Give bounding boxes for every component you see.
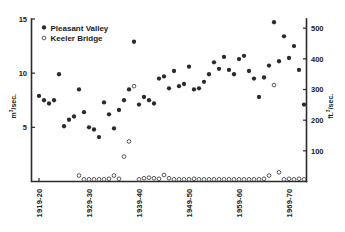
data-point-keeler-bridge: [212, 177, 216, 181]
series-keeler-bridge: [77, 83, 306, 181]
data-point-keeler-bridge: [77, 174, 81, 178]
data-point-keeler-bridge: [207, 177, 211, 181]
data-point-keeler-bridge: [277, 170, 281, 174]
data-point-keeler-bridge: [152, 176, 156, 180]
data-point-pleasant-valley: [212, 60, 216, 64]
data-points-group: [37, 20, 306, 181]
data-point-pleasant-valley: [272, 20, 276, 24]
data-point-pleasant-valley: [302, 102, 306, 106]
data-point-pleasant-valley: [92, 127, 96, 131]
data-point-pleasant-valley: [247, 69, 251, 73]
data-point-keeler-bridge: [242, 177, 246, 181]
y-axis-title-left: m3/sec.: [8, 94, 17, 119]
legend-label: Pleasant Valley: [51, 24, 109, 33]
data-point-pleasant-valley: [282, 34, 286, 38]
data-point-pleasant-valley: [62, 124, 66, 128]
data-point-keeler-bridge: [202, 177, 206, 181]
data-point-keeler-bridge: [222, 177, 226, 181]
data-point-pleasant-valley: [182, 82, 186, 86]
data-point-pleasant-valley: [102, 100, 106, 104]
data-point-pleasant-valley: [107, 112, 111, 116]
data-point-pleasant-valley: [52, 98, 56, 102]
data-point-keeler-bridge: [117, 177, 121, 181]
x-tick-label: 1949-50: [185, 189, 194, 218]
data-point-pleasant-valley: [117, 108, 121, 112]
data-point-keeler-bridge: [102, 177, 106, 181]
data-point-pleasant-valley: [152, 101, 156, 105]
data-point-keeler-bridge: [92, 177, 96, 181]
ticks-group: [32, 19, 307, 182]
data-point-keeler-bridge: [257, 177, 261, 181]
data-point-keeler-bridge: [297, 177, 301, 181]
data-point-keeler-bridge: [122, 155, 126, 159]
data-point-pleasant-valley: [167, 86, 171, 90]
data-point-keeler-bridge: [162, 173, 166, 177]
left-bottom-axis-spine: [32, 19, 307, 182]
data-point-keeler-bridge: [187, 177, 191, 181]
data-point-pleasant-valley: [252, 76, 256, 80]
y-axis-title-right: ft.3/sec.: [325, 94, 334, 119]
data-point-pleasant-valley: [127, 87, 131, 91]
data-point-pleasant-valley: [172, 69, 176, 73]
data-point-pleasant-valley: [277, 59, 281, 63]
data-point-keeler-bridge: [182, 177, 186, 181]
data-point-keeler-bridge: [267, 174, 271, 178]
data-point-pleasant-valley: [217, 67, 221, 71]
x-tick-label: 1969-70: [285, 189, 294, 218]
data-point-pleasant-valley: [207, 72, 211, 76]
data-point-keeler-bridge: [172, 177, 176, 181]
data-point-keeler-bridge: [282, 177, 286, 181]
data-point-pleasant-valley: [147, 98, 151, 102]
legend-marker-filled-circle-icon: [42, 25, 46, 29]
data-point-pleasant-valley: [82, 110, 86, 114]
data-point-pleasant-valley: [42, 98, 46, 102]
data-point-pleasant-valley: [87, 125, 91, 129]
data-point-keeler-bridge: [132, 84, 136, 88]
legend-group: Pleasant ValleyKeeler Bridge: [42, 24, 109, 44]
data-point-pleasant-valley: [257, 95, 261, 99]
data-point-keeler-bridge: [127, 140, 131, 144]
data-point-keeler-bridge: [262, 177, 266, 181]
data-point-keeler-bridge: [272, 83, 276, 87]
data-point-pleasant-valley: [112, 126, 116, 130]
x-tick-label: 1929-30: [85, 189, 94, 218]
data-point-pleasant-valley: [122, 98, 126, 102]
x-tick-label: 1939-40: [135, 189, 144, 218]
data-point-pleasant-valley: [47, 101, 51, 105]
y-tick-label-left: 5: [23, 123, 27, 132]
data-point-pleasant-valley: [162, 74, 166, 78]
data-point-keeler-bridge: [232, 177, 236, 181]
data-point-pleasant-valley: [192, 87, 196, 91]
data-point-keeler-bridge: [87, 177, 91, 181]
data-point-keeler-bridge: [252, 177, 256, 181]
data-point-keeler-bridge: [192, 177, 196, 181]
data-point-pleasant-valley: [237, 57, 241, 61]
data-point-pleasant-valley: [222, 55, 226, 59]
data-point-keeler-bridge: [292, 177, 296, 181]
data-point-pleasant-valley: [297, 68, 301, 72]
data-point-keeler-bridge: [167, 176, 171, 180]
data-point-pleasant-valley: [267, 63, 271, 67]
y-tick-label-left: 10: [19, 69, 27, 78]
data-point-keeler-bridge: [287, 177, 291, 181]
data-point-pleasant-valley: [197, 86, 201, 90]
data-point-keeler-bridge: [177, 177, 181, 181]
data-point-keeler-bridge: [137, 177, 141, 181]
data-point-keeler-bridge: [82, 177, 86, 181]
axis-titles-group: m3/sec.ft.3/sec.: [8, 94, 334, 119]
y-tick-label-left: 15: [19, 15, 27, 24]
data-point-keeler-bridge: [142, 176, 146, 180]
data-point-pleasant-valley: [72, 114, 76, 118]
data-point-keeler-bridge: [147, 176, 151, 180]
data-point-pleasant-valley: [227, 68, 231, 72]
data-point-keeler-bridge: [107, 177, 111, 181]
y-tick-label-right: 100: [311, 147, 324, 156]
data-point-keeler-bridge: [112, 174, 116, 178]
legend-marker-open-circle-icon: [42, 36, 46, 40]
data-point-keeler-bridge: [237, 177, 241, 181]
data-point-pleasant-valley: [232, 72, 236, 76]
data-point-pleasant-valley: [37, 94, 41, 98]
data-point-pleasant-valley: [157, 76, 161, 80]
y-tick-label-right: 200: [311, 116, 324, 125]
data-point-keeler-bridge: [217, 177, 221, 181]
